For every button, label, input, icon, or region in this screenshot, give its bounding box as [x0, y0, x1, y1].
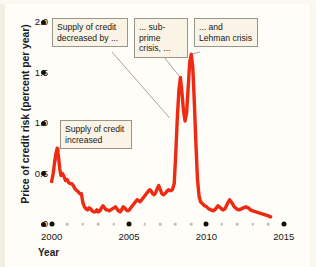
y-tick-dot: [41, 20, 46, 25]
callout-supply-decreased: Supply of credit decreased by ...: [52, 18, 128, 47]
x-tick-dot-major: [127, 222, 132, 227]
x-tick-dot-major: [49, 222, 54, 227]
page-edge-right: [310, 0, 316, 267]
x-tick-dot-minor: [66, 223, 69, 226]
x-tick-dot-major: [204, 222, 209, 227]
x-tick-label: 2015: [273, 231, 294, 242]
credit-risk-price-chart: Price of credit risk (percent per year) …: [0, 0, 316, 267]
y-axis: 2.01.51.00.50: [0, 0, 48, 240]
x-tick-label: 2010: [196, 231, 217, 242]
x-axis-title: Year: [38, 247, 59, 258]
x-tick-dot-minor: [81, 223, 84, 226]
x-tick-dot-minor: [112, 223, 115, 226]
x-tick-dot-minor: [221, 223, 224, 226]
x-tick-dot-minor: [143, 223, 146, 226]
x-tick-dot-major: [281, 222, 286, 227]
x-tick-dot-minor: [267, 223, 270, 226]
y-tick-dot: [41, 70, 46, 75]
x-tick-dot-minor: [252, 223, 255, 226]
leader-line: [191, 52, 200, 54]
x-tick-dot-minor: [174, 223, 177, 226]
x-tick-dot-minor: [97, 223, 100, 226]
y-tick-dot: [41, 222, 46, 227]
callout-lehman-crisis: ... and Lehman crisis: [194, 18, 258, 47]
x-tick-label: 2000: [41, 231, 62, 242]
y-tick-dot: [41, 121, 46, 126]
x-tick-dot-minor: [236, 223, 239, 226]
x-tick-label: 2005: [118, 231, 139, 242]
x-tick-dot-minor: [159, 223, 162, 226]
callout-subprime-crisis: ... sub-prime crisis, ...: [134, 18, 188, 58]
callout-supply-increased: Supply of credit increased: [60, 120, 132, 149]
leader-line: [112, 52, 170, 118]
x-tick-dot-minor: [190, 223, 193, 226]
y-tick-dot: [41, 171, 46, 176]
